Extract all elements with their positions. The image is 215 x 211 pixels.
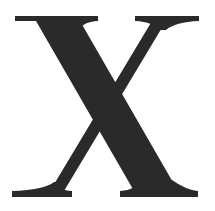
- letter-x-glyph: [0, 0, 215, 211]
- letter-x-image: X: [0, 0, 215, 211]
- top-right-serif: [135, 16, 199, 30]
